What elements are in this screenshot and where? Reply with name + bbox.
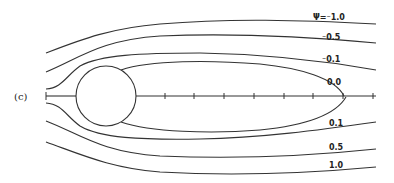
streamline-psi-0.1 [46,103,376,139]
label-psi-0.0: 0.0 [327,78,342,87]
label-psi-minus-1.0: Ψ=⁻1.0 [313,13,345,22]
streamline-psi-0.0-lower [121,97,346,132]
cylinder [76,66,136,126]
label-psi-minus-0.5: ⁻0.5 [322,33,341,42]
label-psi-1.0: 1.0 [329,161,344,170]
label-psi-0.5: 0.5 [329,143,344,152]
streamline-psi-1.0 [46,142,376,174]
label-psi-0.1: 0.1 [329,119,344,128]
panel-label: (c) [14,91,28,102]
streamline-psi-0.0-upper [121,62,344,96]
streamline-diagram: (c) Ψ=⁻1.0 ⁻0.5 ⁻0.1 0.0 0.1 0.5 1.0 [0,0,394,183]
label-psi-minus-0.1: ⁻0.1 [322,55,341,64]
